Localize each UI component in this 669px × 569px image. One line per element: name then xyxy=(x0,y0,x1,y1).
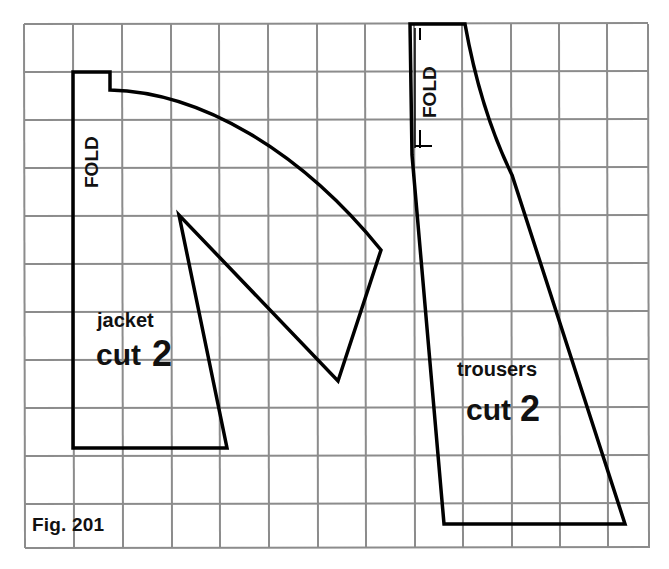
jacket-cut-word: cut xyxy=(96,338,141,371)
jacket-pattern-outline xyxy=(73,72,381,448)
jacket-cut-count: 2 xyxy=(152,333,172,374)
trousers-name-label: trousers xyxy=(457,358,537,380)
jacket-fold-label: FOLD xyxy=(81,136,102,188)
trousers-cut-count: 2 xyxy=(520,388,540,429)
trousers-cut-word: cut xyxy=(466,393,511,426)
jacket-name-label: jacket xyxy=(96,309,154,331)
trousers-fold-label: FOLD xyxy=(419,66,440,118)
figure-caption: Fig. 201 xyxy=(32,514,104,536)
trousers-pattern-outline xyxy=(410,24,625,524)
pattern-diagram: FOLD jacket cut 2 FOLD trousers cut 2 xyxy=(0,0,669,569)
pattern-grid xyxy=(24,23,649,548)
